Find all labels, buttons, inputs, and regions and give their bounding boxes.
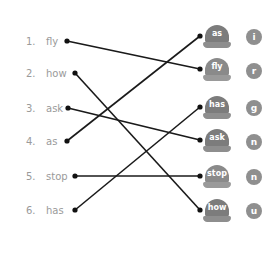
cap-brim bbox=[203, 182, 231, 188]
cap-brim bbox=[203, 75, 231, 81]
cap-label: as bbox=[203, 29, 231, 38]
cap-stop[interactable]: stop bbox=[203, 165, 231, 189]
cap-label: has bbox=[203, 100, 231, 109]
item-number: 5. bbox=[26, 171, 36, 182]
letter-circle-5: n bbox=[246, 169, 262, 185]
left-item-3[interactable]: 3. ask bbox=[0, 100, 70, 116]
cap-label: ask bbox=[203, 133, 231, 142]
cap-brim bbox=[203, 42, 231, 48]
item-number: 2. bbox=[26, 68, 36, 79]
left-item-5[interactable]: 5. stop bbox=[0, 168, 70, 184]
cap-ask[interactable]: ask bbox=[203, 129, 231, 153]
item-word: ask bbox=[46, 103, 63, 114]
item-word: how bbox=[46, 68, 67, 79]
cap-how[interactable]: how bbox=[203, 199, 231, 223]
item-number: 1. bbox=[26, 36, 36, 47]
left-item-6[interactable]: 6. has bbox=[0, 202, 70, 218]
cap-brim bbox=[203, 146, 231, 152]
letter-circle-2: r bbox=[246, 63, 262, 79]
left-item-4[interactable]: 4. as bbox=[0, 133, 70, 149]
item-word: as bbox=[46, 136, 57, 147]
cap-label: fly bbox=[203, 62, 231, 71]
item-number: 4. bbox=[26, 136, 36, 147]
item-word: stop bbox=[46, 171, 68, 182]
cap-has[interactable]: has bbox=[203, 96, 231, 120]
left-item-1[interactable]: 1. fly bbox=[0, 33, 70, 49]
letter-circle-4: n bbox=[246, 134, 262, 150]
item-number: 3. bbox=[26, 103, 36, 114]
cap-brim bbox=[203, 216, 231, 222]
cap-label: stop bbox=[203, 169, 231, 178]
item-word: fly bbox=[46, 36, 58, 47]
cap-as[interactable]: as bbox=[203, 25, 231, 49]
letter-circle-6: u bbox=[246, 203, 262, 219]
item-number: 6. bbox=[26, 205, 36, 216]
left-item-2[interactable]: 2. how bbox=[0, 65, 70, 81]
letter-circle-3: g bbox=[246, 100, 262, 116]
cap-brim bbox=[203, 113, 231, 119]
cap-fly[interactable]: fly bbox=[203, 58, 231, 82]
letter-circle-1: i bbox=[246, 29, 262, 45]
item-word: has bbox=[46, 205, 64, 216]
cap-label: how bbox=[203, 203, 231, 212]
